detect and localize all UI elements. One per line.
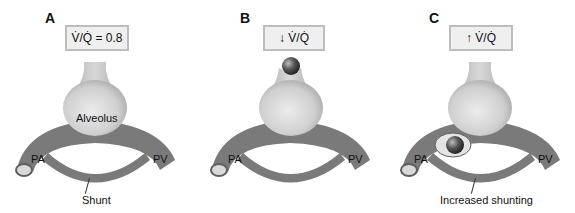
- pv-label: PV: [538, 153, 553, 165]
- increased-shunting-label: Increased shunting: [440, 194, 533, 206]
- shunt-label: Shunt: [82, 194, 111, 206]
- alveolus-label: Alveolus: [76, 112, 118, 124]
- alveolus-vessel-illustration: [385, 0, 575, 213]
- alveolus-vessel-illustration: [195, 0, 385, 213]
- pa-label: PA: [228, 153, 242, 165]
- pv-label: PV: [153, 153, 168, 165]
- panel-a: A V̇/Q̇ = 0.8 Alveolus PA PV Shunt: [0, 0, 190, 213]
- pa-label: PA: [414, 153, 428, 165]
- vessel-obstruction-icon: [446, 136, 464, 154]
- panel-c: C ↑ V̇/Q̇ PA PV Increased shunting: [385, 0, 575, 213]
- airway-obstruction-icon: [282, 57, 300, 75]
- pv-label: PV: [348, 153, 363, 165]
- alveolus-vessel-illustration: [0, 0, 190, 213]
- pa-label: PA: [31, 153, 45, 165]
- panel-b: B ↓ V̇/Q̇ PA PV: [195, 0, 385, 213]
